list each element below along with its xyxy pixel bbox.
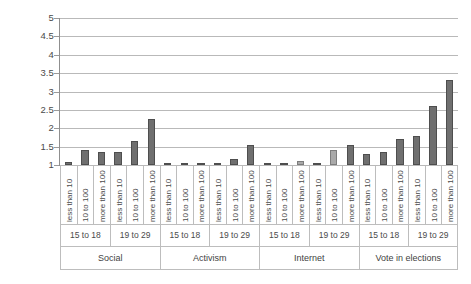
category-strip: SocialActivismInternetVote in elections xyxy=(60,246,458,270)
x-tick-label: 10 to 100 xyxy=(430,189,438,222)
bar-chart: 11.522.533.544.55 less than 1010 to 100m… xyxy=(0,0,471,284)
y-tick-mark xyxy=(54,165,59,166)
x-tick-label: more than 100 xyxy=(198,170,206,222)
category-strip-bottom-rule xyxy=(60,269,458,270)
y-tick-mark xyxy=(54,55,59,56)
y-tick-mark xyxy=(54,18,59,19)
bar xyxy=(247,145,254,165)
x-tick-cell: 10 to 100 xyxy=(77,166,94,224)
x-tick-label: more than 100 xyxy=(297,170,305,222)
age-group-label: 15 to 18 xyxy=(359,224,409,246)
category-label: Activism xyxy=(160,246,260,270)
age-group-label: 15 to 18 xyxy=(160,224,210,246)
bar xyxy=(131,141,138,165)
bar xyxy=(98,152,105,165)
x-tick-cell: less than 10 xyxy=(160,166,177,224)
x-tick-cell: more than 100 xyxy=(392,166,409,224)
y-tick-mark xyxy=(54,147,59,148)
x-tick-cell: less than 10 xyxy=(209,166,226,224)
x-tick-label: more than 100 xyxy=(248,170,256,222)
y-tick-mark xyxy=(54,128,59,129)
x-tick-label: less than 10 xyxy=(414,179,422,222)
bar xyxy=(413,136,420,165)
x-tick-label: more than 100 xyxy=(397,170,405,222)
bar xyxy=(429,106,436,165)
y-tick-mark xyxy=(54,73,59,74)
bar xyxy=(148,119,155,165)
x-tick-label: less than 10 xyxy=(264,179,272,222)
age-group-strip: 15 to 1819 to 2915 to 1819 to 2915 to 18… xyxy=(60,224,458,246)
bar xyxy=(363,154,370,165)
x-tick-label: 10 to 100 xyxy=(82,189,90,222)
bar xyxy=(81,150,88,165)
age-group-label: 19 to 29 xyxy=(209,224,259,246)
x-tick-cell: 10 to 100 xyxy=(176,166,193,224)
bar xyxy=(65,162,72,165)
y-tick-label: 2 xyxy=(8,123,54,133)
bar xyxy=(280,163,287,165)
x-tick-cell: less than 10 xyxy=(309,166,326,224)
x-tick-label: less than 10 xyxy=(215,179,223,222)
bar xyxy=(264,163,271,165)
x-tick-label: more than 100 xyxy=(98,170,106,222)
x-tick-cell: 10 to 100 xyxy=(226,166,243,224)
x-tick-cell: less than 10 xyxy=(60,166,77,224)
x-tick-cell: more than 100 xyxy=(292,166,309,224)
bar xyxy=(181,163,188,165)
x-tick-label: less than 10 xyxy=(115,179,123,222)
x-tick-label: less than 10 xyxy=(65,179,73,222)
bars-layer xyxy=(60,18,458,165)
x-tick-cell: 10 to 100 xyxy=(375,166,392,224)
x-tick-cell: less than 10 xyxy=(110,166,127,224)
x-tick-label: less than 10 xyxy=(364,179,372,222)
y-tick-label: 5 xyxy=(8,13,54,23)
bar xyxy=(446,80,453,165)
y-tick-label: 4.5 xyxy=(8,31,54,41)
bar xyxy=(380,152,387,165)
y-tick-mark xyxy=(54,92,59,93)
bar xyxy=(164,163,171,165)
y-tick-label: 3 xyxy=(8,87,54,97)
bar xyxy=(330,150,337,165)
x-tick-label: 10 to 100 xyxy=(231,189,239,222)
category-label: Internet xyxy=(259,246,359,270)
x-tick-cell: 10 to 100 xyxy=(425,166,442,224)
x-tick-cell: more than 100 xyxy=(242,166,259,224)
bar xyxy=(347,145,354,165)
y-tick-label: 1 xyxy=(8,160,54,170)
y-tick-mark xyxy=(54,110,59,111)
category-label: Vote in elections xyxy=(359,246,459,270)
bar xyxy=(230,159,237,165)
x-tick-cell: 10 to 100 xyxy=(325,166,342,224)
age-group-label: 15 to 18 xyxy=(60,224,110,246)
x-tick-label: more than 100 xyxy=(446,170,454,222)
bar xyxy=(214,163,221,165)
x-tick-cell: more than 100 xyxy=(342,166,359,224)
category-label: Social xyxy=(60,246,160,270)
y-axis-labels: 11.522.533.544.55 xyxy=(0,0,54,284)
x-tick-cell: more than 100 xyxy=(143,166,160,224)
bar xyxy=(114,152,121,165)
y-tick-label: 4 xyxy=(8,50,54,60)
x-tick-label: 10 to 100 xyxy=(181,189,189,222)
x-tick-cell: more than 100 xyxy=(193,166,210,224)
x-tick-label: 10 to 100 xyxy=(380,189,388,222)
y-tick-mark xyxy=(54,36,59,37)
y-tick-label: 2.5 xyxy=(8,105,54,115)
bar xyxy=(396,139,403,165)
age-group-label: 19 to 29 xyxy=(110,224,160,246)
x-tick-cell: 10 to 100 xyxy=(126,166,143,224)
x-tick-cell: less than 10 xyxy=(359,166,376,224)
y-tick-label: 1.5 xyxy=(8,142,54,152)
bar xyxy=(197,163,204,165)
x-tick-cell: more than 100 xyxy=(93,166,110,224)
x-tick-label: less than 10 xyxy=(165,179,173,222)
age-group-label: 19 to 29 xyxy=(408,224,458,246)
x-tick-label: more than 100 xyxy=(148,170,156,222)
bar xyxy=(313,163,320,165)
x-tick-cell: 10 to 100 xyxy=(276,166,293,224)
x-tick-cell: less than 10 xyxy=(408,166,425,224)
age-group-label: 19 to 29 xyxy=(309,224,359,246)
x-tick-label: 10 to 100 xyxy=(132,189,140,222)
x-tick-label: 10 to 100 xyxy=(331,189,339,222)
